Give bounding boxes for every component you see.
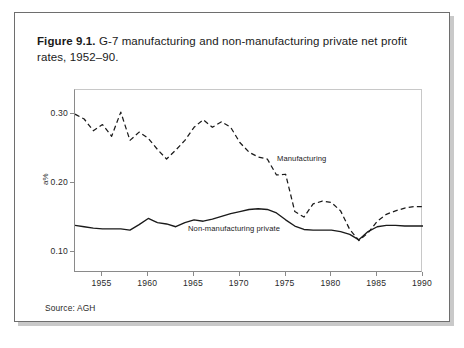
x-tick-mark bbox=[193, 272, 194, 276]
figure-panel: Figure 9.1. G-7 manufacturing and non-ma… bbox=[14, 12, 450, 322]
x-tick-label: 1985 bbox=[359, 278, 393, 288]
y-tick-mark bbox=[70, 251, 74, 252]
y-tick-label: 0.30 bbox=[38, 108, 68, 118]
series-label-non-manufacturing: Non-manufacturing private bbox=[188, 224, 280, 233]
x-tick-label: 1990 bbox=[405, 278, 439, 288]
y-tick-label: 0.10 bbox=[38, 246, 68, 256]
x-tick-label: 1975 bbox=[268, 278, 302, 288]
series-label-manufacturing: Manufacturing bbox=[277, 154, 326, 163]
y-tick-mark bbox=[70, 182, 74, 183]
figure-caption: Figure 9.1. G-7 manufacturing and non-ma… bbox=[37, 33, 429, 65]
chart-svg bbox=[75, 90, 423, 273]
x-tick-label: 1970 bbox=[222, 278, 256, 288]
x-tick-mark bbox=[239, 272, 240, 276]
x-tick-mark bbox=[376, 272, 377, 276]
series-line-manufacturing bbox=[75, 112, 423, 240]
x-tick-label: 1960 bbox=[130, 278, 164, 288]
x-tick-label: 1955 bbox=[84, 278, 118, 288]
x-tick-label: 1965 bbox=[176, 278, 210, 288]
x-tick-mark bbox=[147, 272, 148, 276]
y-tick-label: 0.20 bbox=[38, 177, 68, 187]
x-tick-label: 1980 bbox=[313, 278, 347, 288]
plot-area bbox=[74, 89, 422, 272]
y-tick-mark bbox=[70, 113, 74, 114]
figure-number: Figure 9.1. bbox=[37, 35, 96, 47]
source-note: Source: AGH bbox=[45, 303, 96, 313]
x-tick-mark bbox=[101, 272, 102, 276]
x-tick-mark bbox=[330, 272, 331, 276]
x-tick-mark bbox=[285, 272, 286, 276]
x-tick-mark bbox=[422, 272, 423, 276]
